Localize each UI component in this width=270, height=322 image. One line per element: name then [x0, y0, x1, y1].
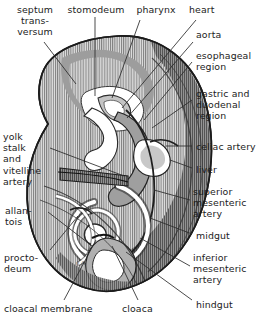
label-midgut: midgut	[196, 230, 244, 241]
label-allantois: allan- tois	[5, 205, 49, 227]
figure-canvas: septum trans- versumstomodeumpharynxhear…	[0, 0, 270, 322]
label-hindgut: hindgut	[196, 299, 246, 310]
label-cloacal-membrane: cloacal membrane	[4, 303, 108, 314]
label-heart: heart	[189, 4, 233, 15]
label-gastric-duodenal-region: gastric and duodenal region	[196, 88, 268, 122]
label-pharynx: pharynx	[131, 4, 181, 15]
label-stomodeum: stomodeum	[62, 4, 130, 15]
label-cloaca: cloaca	[122, 303, 166, 314]
label-liver: liver	[196, 164, 240, 175]
label-aorta: aorta	[196, 29, 240, 40]
label-esophageal-region: esophageal region	[196, 50, 266, 72]
label-celiac-artery: celiac artery	[196, 141, 268, 152]
label-septum-transversum: septum trans- versum	[4, 4, 66, 38]
label-yolk-stalk-vitelline-artery: yolk stalk and vitelline artery	[3, 131, 55, 187]
label-superior-mesenteric-artery: superior mesenteric artery	[193, 186, 267, 220]
label-inferior-mesenteric-artery: inferior mesenteric artery	[193, 252, 267, 286]
label-proctodeum: procto- deum	[4, 252, 54, 274]
